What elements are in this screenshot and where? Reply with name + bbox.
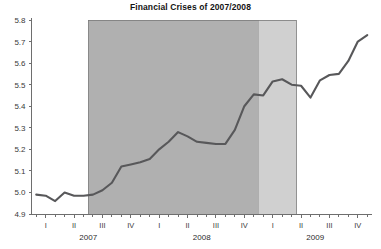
y-tick-label: 5.0 [14,188,26,197]
x-tick-label: I [158,221,160,230]
y-tick-label: 5.4 [14,102,26,111]
y-tick-label: 5.1 [14,167,26,176]
x-tick-label: IV [354,221,361,230]
x-tick-label: I [45,221,47,230]
y-tick-label: 5.5 [14,81,26,90]
x-tick-label: II [185,221,189,230]
y-tick-label: 5.8 [14,16,26,25]
y-tick-label: 4.9 [14,210,26,219]
crisis-band-dark [88,20,258,214]
x-tick-label: III [213,221,219,230]
chart-plot: 4.95.05.15.25.35.45.55.65.75.8IIIIIIIVII… [0,0,381,249]
x-tick-label: III [99,221,105,230]
x-year-label: 2008 [193,233,211,242]
x-tick-label: III [326,221,332,230]
y-tick-label: 5.3 [14,124,26,133]
x-tick-label: IV [241,221,248,230]
y-tick-label: 5.2 [14,145,26,154]
shaded-regions-layer [88,20,296,214]
x-tick-label: II [72,221,76,230]
x-tick-label: I [272,221,274,230]
x-year-label: 2009 [306,233,324,242]
y-tick-label: 5.6 [14,59,26,68]
chart-container: Financial Crises of 2007/2008 4.95.05.15… [0,0,381,249]
y-tick-label: 5.7 [14,38,26,47]
crisis-band-light [259,20,297,214]
x-tick-label: II [299,221,303,230]
x-tick-label: IV [127,221,134,230]
x-year-label: 2007 [79,233,97,242]
